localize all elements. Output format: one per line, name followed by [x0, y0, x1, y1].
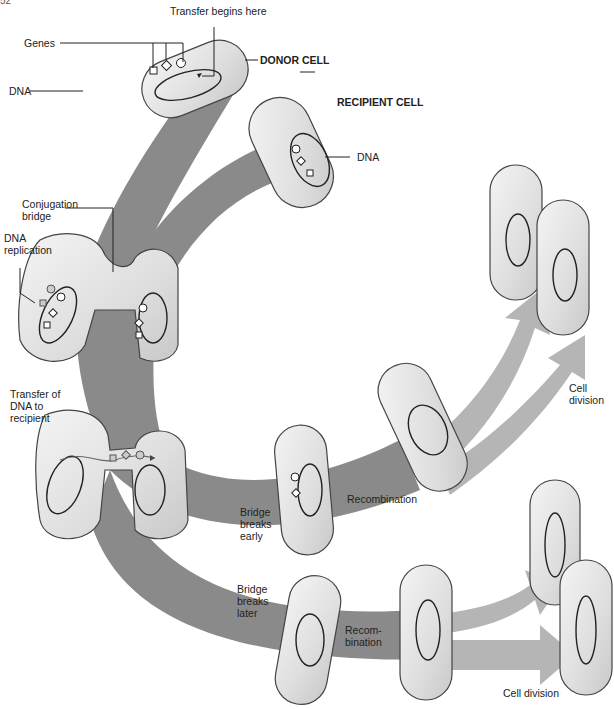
division-cells-top [490, 165, 589, 335]
conjugation-diagram [0, 0, 614, 709]
label-transfer-of-dna: Transfer of DNA to recipient [10, 388, 60, 424]
label-dna-replication: DNA replication [4, 232, 52, 256]
label-conjugation-bridge: Conjugation bridge [22, 198, 78, 222]
recombination-cell-2 [400, 565, 452, 700]
label-dna-recipient: DNA [357, 151, 379, 163]
label-recombination-2: Recom- bination [345, 624, 382, 648]
label-genes: Genes [24, 37, 55, 49]
late-break-cell [271, 571, 345, 708]
label-dna-donor: DNA [9, 85, 31, 97]
early-break-cell [272, 423, 335, 557]
label-cell-division-2: Cell division [503, 687, 559, 699]
label-transfer-begins: Transfer begins here [170, 5, 267, 17]
label-bridge-breaks-later: Bridge breaks later [237, 583, 269, 619]
label-recipient-cell: RECIPIENT CELL [337, 96, 423, 108]
label-donor-cell: DONOR CELL [260, 54, 329, 66]
label-bridge-breaks-early: Bridge breaks early [240, 506, 272, 542]
label-cell-division-1: Cell division [569, 382, 604, 406]
label-recombination-1: Recombination [347, 493, 417, 505]
